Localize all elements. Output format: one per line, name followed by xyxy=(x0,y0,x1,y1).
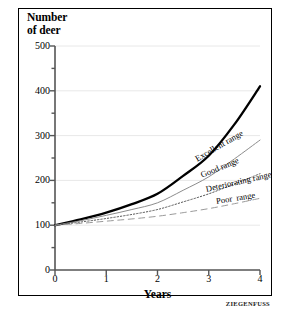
chart-figure: Number of deer 0100200300400500 Excellen… xyxy=(0,0,290,326)
x-tick-label: 4 xyxy=(250,274,270,284)
y-axis-tick-labels: 0100200300400500 xyxy=(18,46,50,270)
plot-area: Excellent rangeGood rangeDeteriorating r… xyxy=(55,46,260,270)
curve-excellent-range xyxy=(55,86,260,225)
x-tick-label: 1 xyxy=(96,274,116,284)
credit-attribution: ZIEGENFUSS xyxy=(226,300,270,307)
x-tick-label: 2 xyxy=(148,274,168,284)
data-curves xyxy=(55,86,260,225)
y-tick-label: 300 xyxy=(20,131,50,141)
y-tick-label: 400 xyxy=(20,86,50,96)
x-tick-label: 3 xyxy=(199,274,219,284)
x-tick-label: 0 xyxy=(45,274,65,284)
y-tick-label: 500 xyxy=(20,41,50,51)
y-tick-label: 100 xyxy=(20,220,50,230)
chart-title: Number of deer xyxy=(27,11,67,37)
x-axis-title: Years xyxy=(55,288,260,300)
y-tick-label: 200 xyxy=(20,175,50,185)
